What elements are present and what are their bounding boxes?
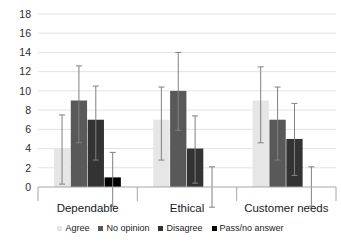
y-axis-tick-label: 10: [19, 85, 31, 97]
x-axis-category-label: Customer needs: [244, 202, 329, 214]
y-axis-tick-label: 18: [19, 8, 31, 20]
y-axis-tick-label: 4: [25, 142, 31, 154]
x-axis-category-label: Ethical: [170, 202, 205, 214]
legend-swatch-icon: [98, 226, 103, 231]
y-axis-tick-label: 14: [19, 46, 31, 58]
y-axis-tick-label: 2: [25, 162, 31, 174]
y-axis-tick-labels: 024681012141618: [19, 8, 31, 193]
legend-item-label: Agree: [65, 224, 89, 233]
legend-item-label: Pass/no answer: [220, 224, 284, 233]
x-axis-ticks: [38, 187, 336, 201]
x-axis-tick-labels: DependableEthicalCustomer needs: [57, 202, 329, 214]
y-axis-tick-label: 16: [19, 27, 31, 39]
chart-plot-area: 024681012141618 DependableEthicalCustome…: [0, 0, 341, 246]
legend-item-label: No opinion: [106, 224, 149, 233]
y-axis-tick-label: 6: [25, 123, 31, 135]
y-axis-tick-label: 12: [19, 65, 31, 77]
legend-item[interactable]: Agree: [57, 224, 89, 233]
bar-chart: 024681012141618 DependableEthicalCustome…: [0, 0, 341, 246]
legend-item[interactable]: No opinion: [98, 224, 149, 233]
legend-item[interactable]: Disagree: [158, 224, 202, 233]
x-axis-category-label: Dependable: [57, 202, 119, 214]
legend-swatch-icon: [158, 226, 163, 231]
chart-legend: AgreeNo opinionDisagreePass/no answer: [0, 224, 341, 233]
y-axis-tick-label: 0: [25, 181, 31, 193]
y-axis-tick-label: 8: [25, 104, 31, 116]
legend-item-label: Disagree: [166, 224, 202, 233]
legend-swatch-icon: [212, 226, 217, 231]
legend-swatch-icon: [57, 226, 62, 231]
legend-item[interactable]: Pass/no answer: [212, 224, 284, 233]
